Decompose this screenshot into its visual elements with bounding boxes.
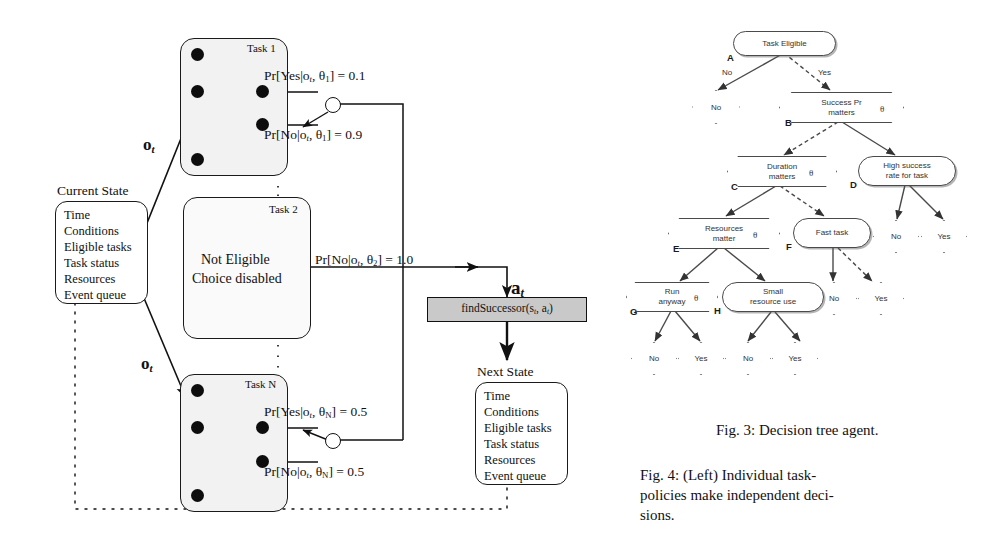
tree-key-h: H (714, 305, 721, 316)
tree-node-a-label: Task Eligible (762, 39, 806, 49)
tree-theta-g: θ (694, 293, 698, 303)
tree-node-c-label: Duration matters (767, 162, 797, 182)
tree-leaf-label: Yes (694, 354, 707, 363)
tree-key-e: E (673, 243, 679, 254)
tree-node-h[interactable]: Small resource use (722, 282, 824, 312)
tree-key-d: D (850, 179, 857, 190)
tree-node-e-label: Resources matter (705, 224, 743, 244)
tree-leaf-label: No (743, 354, 753, 363)
tree-node-d-label: High success rate for task (883, 161, 931, 181)
tree-key-g: G (630, 306, 637, 317)
tree-theta-c: θ (809, 168, 813, 178)
tree-node-b[interactable]: Success Pr matters (779, 92, 904, 123)
tree-edge-label-yes: Yes (818, 68, 831, 77)
tree-leaf-label: Yes (937, 232, 950, 241)
tree-node-h-label: Small resource use (750, 287, 796, 307)
tree-node-e[interactable]: Resources matter (668, 218, 780, 249)
tree-leaf-label: Yes (874, 294, 887, 303)
tree-leaf-label: No (891, 232, 901, 241)
tree-node-d[interactable]: High success rate for task (858, 156, 956, 186)
tree-key-c: C (731, 181, 738, 192)
tree-node-f[interactable]: Fast task (793, 218, 871, 248)
tree-edge-label-no: No (722, 68, 732, 77)
tree-theta-b: θ (880, 104, 884, 114)
tree-leaf-label: No (829, 294, 839, 303)
tree-theta-e: θ (753, 230, 757, 240)
tree-node-g[interactable]: Run anyway (626, 282, 718, 312)
tree-leaf-label: Yes (788, 354, 801, 363)
tree-node-f-label: Fast task (816, 228, 848, 238)
figure-4-caption-line-3: sions. (640, 506, 982, 526)
figure-4-caption: Fig. 4: (Left) Individual task- policies… (640, 466, 982, 526)
tree-node-g-label: Run anyway (658, 287, 685, 307)
tree-node-a[interactable]: Task Eligible (733, 31, 836, 56)
figure-3-caption: Fig. 3: Decision tree agent. (716, 421, 878, 441)
figure-4-caption-line-2: policies make independent deci- (640, 486, 982, 506)
tree-node-c[interactable]: Duration matters (727, 156, 837, 187)
tree-leaf-label: No (649, 354, 659, 363)
tree-leaf-label: No (711, 103, 721, 112)
tree-key-f: F (786, 241, 792, 252)
figure-4-caption-line-1: Fig. 4: (Left) Individual task- (640, 466, 982, 486)
tree-key-a: A (727, 52, 734, 63)
tree-key-b: B (785, 117, 792, 128)
tree-node-b-label: Success Pr matters (821, 98, 861, 118)
